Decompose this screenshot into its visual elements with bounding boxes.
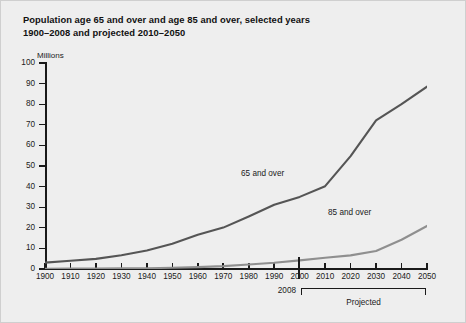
page-title: Population age 65 and over and age 85 an… <box>23 14 443 39</box>
y-tick-label-10: 10 <box>11 243 35 252</box>
title-line-2: 1900–2008 and projected 2010–2050 <box>23 27 443 40</box>
y-axis-title: Millions <box>37 51 64 60</box>
series-label-85-and-over: 85 and over <box>328 208 371 217</box>
y-tick-label-80: 80 <box>11 99 35 108</box>
y-tick-label-50: 50 <box>11 161 35 170</box>
projected-label: Projected <box>301 298 426 307</box>
y-tick-label-60: 60 <box>11 140 35 149</box>
y-tick-label-30: 30 <box>11 202 35 211</box>
y-tick-label-70: 70 <box>11 120 35 129</box>
divider-year-label: 2008 <box>258 286 296 295</box>
y-tick-label-40: 40 <box>11 182 35 191</box>
plot-area <box>45 63 427 269</box>
title-line-1: Population age 65 and over and age 85 an… <box>23 14 443 27</box>
x-tick-label-2050: 2050 <box>412 272 442 281</box>
chart-figure: Population age 65 and over and age 85 an… <box>0 0 466 323</box>
y-tick-label-20: 20 <box>11 223 35 232</box>
projection-divider <box>298 257 300 279</box>
series-label-65-and-over: 65 and over <box>241 169 284 178</box>
series-line-65-and-over <box>45 87 427 263</box>
y-tick-label-90: 90 <box>11 79 35 88</box>
y-tick-label-100: 100 <box>11 58 35 67</box>
series-line-85-and-over <box>45 226 427 269</box>
projected-bracket <box>301 288 426 295</box>
